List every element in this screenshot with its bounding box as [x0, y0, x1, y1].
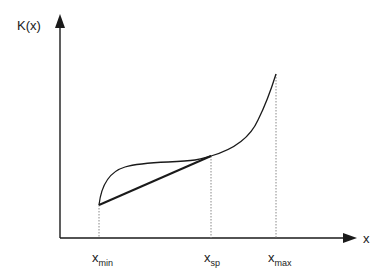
diagram-canvas: K(x) x xmin xsp xmax: [0, 0, 388, 274]
tick-label-x-sp: xsp: [204, 250, 220, 268]
tick-label-x-min: xmin: [92, 250, 113, 268]
y-axis-label: K(x): [17, 18, 41, 33]
svg-text:xmax: xmax: [268, 250, 292, 268]
y-axis: [55, 14, 65, 238]
tick-label-x-max: xmax: [268, 250, 292, 268]
svg-text:xsp: xsp: [204, 250, 220, 268]
y-axis-arrow-icon: [55, 14, 65, 28]
x-axis-label: x: [363, 231, 370, 246]
k-curve: [99, 74, 276, 205]
x-axis-arrow-icon: [343, 233, 357, 243]
x-axis: [60, 233, 357, 243]
svg-text:xmin: xmin: [92, 250, 113, 268]
dotted-guides: [99, 74, 276, 238]
